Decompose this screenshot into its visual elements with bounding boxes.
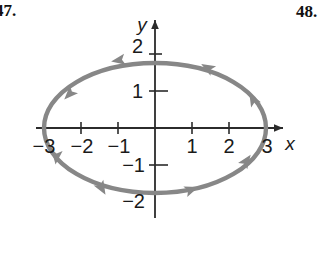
y-tick-label-1: 1 bbox=[132, 80, 143, 102]
x-tick-label-3: 3 bbox=[261, 135, 272, 157]
x-axis-arrowhead bbox=[274, 124, 283, 132]
x-tick-label-1: 1 bbox=[186, 135, 197, 157]
x-axis-label: x bbox=[284, 133, 296, 154]
y-tick-label-2: 2 bbox=[132, 35, 143, 57]
y-tick-label--2: −2 bbox=[122, 190, 145, 212]
y-axis-arrowhead bbox=[151, 20, 159, 29]
figure-root: 47. 48. bbox=[0, 0, 332, 263]
y-axis-label: y bbox=[135, 14, 148, 35]
x-tick-label-2: 2 bbox=[223, 135, 234, 157]
y-tick-label--1: −1 bbox=[122, 154, 145, 176]
y-axis-ticks bbox=[149, 54, 168, 193]
ellipse-plot: −3 −2 −1 1 2 3 2 1 −1 −2 x y bbox=[0, 0, 332, 263]
x-tick-label--3: −3 bbox=[33, 135, 56, 157]
axis-name-labels: x y bbox=[135, 14, 296, 154]
x-tick-label--2: −2 bbox=[71, 135, 94, 157]
axes-group bbox=[36, 20, 283, 218]
